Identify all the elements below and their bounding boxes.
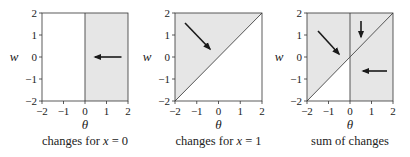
x-tick-label: 1 (104, 105, 110, 117)
figure: −2−2−1−1001122θwchanges for x = 0−2−2−1−… (0, 0, 410, 157)
x-tick-label: −2 (36, 105, 48, 117)
x-tick-label: −2 (169, 105, 181, 117)
y-tick-label: 1 (297, 29, 303, 41)
y-axis-label: w (143, 49, 152, 64)
y-tick-label: 2 (32, 7, 38, 19)
y-tick-label: −1 (158, 73, 170, 85)
x-tick-label: 2 (390, 105, 396, 117)
panel-x1 (175, 13, 262, 101)
y-tick-label: 0 (297, 51, 303, 63)
x-tick-label: 0 (82, 105, 88, 117)
y-tick-label: −2 (25, 95, 37, 107)
x-tick-label: −1 (58, 105, 70, 117)
x-axis-label: θ (215, 117, 222, 132)
x-axis-label: θ (82, 117, 89, 132)
y-tick-label: 2 (297, 7, 303, 19)
y-tick-label: −2 (158, 95, 170, 107)
x-tick-label: −1 (191, 105, 203, 117)
x-tick-label: 1 (369, 105, 375, 117)
x-tick-label: 0 (347, 105, 353, 117)
x-tick-label: 2 (125, 105, 131, 117)
x-tick-label: 1 (238, 105, 244, 117)
panel-x0 (42, 13, 128, 101)
y-tick-label: 0 (165, 51, 171, 63)
panel-caption: sum of changes (311, 134, 389, 148)
y-tick-label: 1 (165, 29, 171, 41)
x-axis-label: θ (347, 117, 354, 132)
y-tick-label: 1 (32, 29, 38, 41)
x-tick-label: 2 (259, 105, 265, 117)
x-tick-label: −1 (323, 105, 335, 117)
panel-sum (307, 13, 393, 101)
panel-caption: changes for x = 1 (175, 134, 261, 148)
y-tick-label: 2 (165, 7, 171, 19)
panel-caption: changes for x = 0 (42, 134, 128, 148)
x-tick-label: −2 (301, 105, 313, 117)
x-tick-label: 0 (216, 105, 222, 117)
y-tick-label: −1 (290, 73, 302, 85)
y-axis-label: w (275, 49, 284, 64)
y-tick-label: −1 (25, 73, 37, 85)
y-tick-label: 0 (32, 51, 38, 63)
y-tick-label: −2 (290, 95, 302, 107)
y-axis-label: w (10, 49, 19, 64)
